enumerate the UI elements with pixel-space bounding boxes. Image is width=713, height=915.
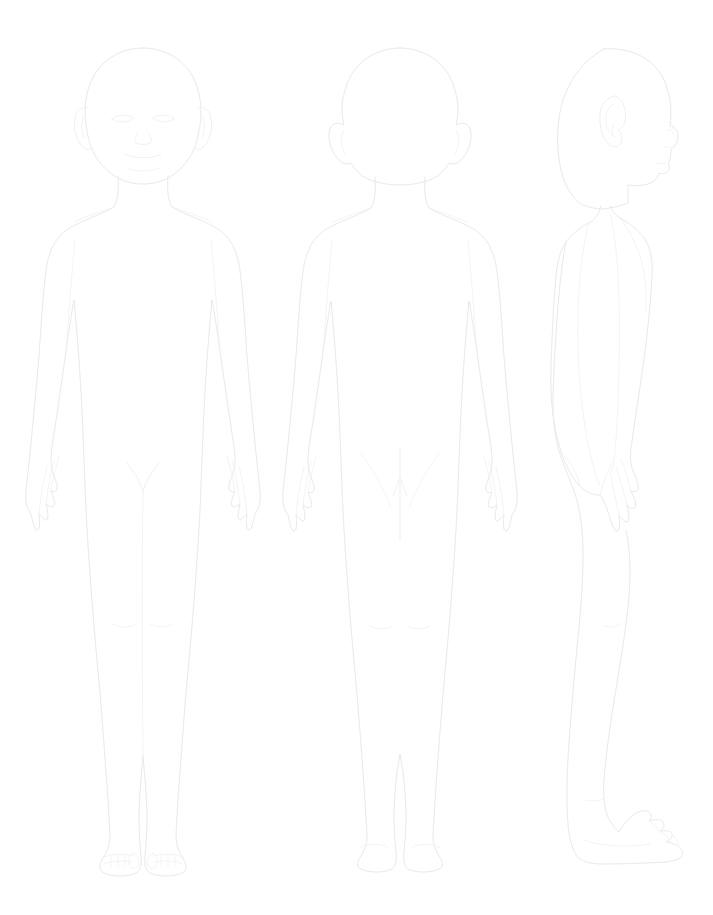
posterior-head-outline — [329, 48, 471, 185]
posterior-ear-left — [341, 130, 345, 154]
anterior-foot-left-toes — [102, 854, 132, 866]
anterior-midline — [142, 492, 143, 756]
lateral-arm-front — [610, 213, 619, 472]
posterior-knee-left — [370, 626, 392, 629]
lateral-lips — [657, 163, 666, 164]
figure-anterior[interactable] — [26, 48, 261, 876]
lateral-body-outline — [551, 206, 652, 531]
posterior-knee-right — [408, 626, 430, 629]
anterior-ear-left — [74, 107, 91, 149]
anterior-ear-right — [195, 107, 212, 149]
lateral-nostril — [665, 147, 671, 148]
lateral-foot-arch — [583, 840, 650, 846]
anterior-body-outline — [26, 176, 261, 876]
posterior-trapezius-right — [429, 208, 469, 223]
posterior-inner-arm-right — [468, 241, 477, 352]
posterior-inner-arm-left — [323, 241, 332, 352]
lateral-head-outline — [558, 49, 678, 209]
anterior-inner-arm-right — [211, 240, 220, 351]
posterior-heel-right — [411, 844, 440, 848]
anterior-nose — [134, 134, 151, 145]
anterior-groin — [127, 463, 159, 492]
lateral-ear-tragus — [612, 124, 615, 135]
anterior-inner-arm-left — [66, 240, 75, 351]
anterior-clavicle-left — [74, 207, 114, 222]
lateral-ankle — [585, 798, 606, 801]
anterior-knee-left — [113, 624, 136, 627]
body-diagram-canvas — [0, 0, 713, 915]
lateral-eye — [667, 130, 673, 134]
anterior-chin-line — [127, 168, 159, 171]
lateral-arm-back — [578, 222, 600, 486]
anterior-ear-left-inner — [82, 116, 84, 138]
anterior-clavicle-right — [172, 207, 212, 222]
posterior-trapezius-left — [331, 208, 371, 223]
lateral-ear — [600, 96, 626, 147]
posterior-ear-right — [455, 130, 459, 154]
body-diagram-sheet — [0, 0, 713, 915]
lateral-ear-inner — [606, 104, 615, 137]
anterior-head-outline — [85, 48, 201, 184]
anterior-knee-right — [150, 624, 173, 627]
lateral-back-leg-outline — [553, 242, 683, 864]
anterior-eye-left — [112, 115, 133, 122]
posterior-buttock-left — [360, 452, 390, 506]
lateral-chest-line — [620, 218, 646, 312]
anterior-mouth — [125, 154, 161, 158]
anterior-foot-right-toes — [154, 854, 184, 866]
anterior-eye-right — [153, 115, 174, 122]
figure-posterior[interactable] — [283, 48, 518, 872]
posterior-buttock-right — [410, 452, 440, 506]
lateral-hand-fingers — [600, 459, 631, 515]
lateral-knee — [604, 623, 622, 627]
posterior-heel-left — [360, 844, 389, 848]
anterior-ear-right-inner — [202, 116, 204, 138]
figure-lateral[interactable] — [551, 49, 683, 864]
